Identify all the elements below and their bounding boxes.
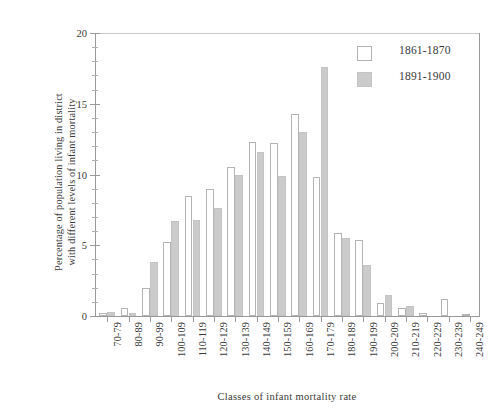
y-tick-label-5: 5 — [82, 240, 87, 251]
bar-1861-1870-150-159 — [270, 143, 277, 316]
bar-1861-1870-110-119 — [185, 196, 192, 316]
bar-1861-1870-100-109 — [163, 242, 170, 316]
bar-1861-1870-200-209 — [377, 303, 384, 316]
bar-1861-1870-170-179 — [313, 177, 320, 316]
legend-item-1891-1900: 1891-1900 — [357, 70, 479, 96]
bar-1861-1870-210-219 — [398, 308, 405, 316]
x-tick-label-140-149: 140-149 — [261, 322, 272, 357]
legend-item-1861-1870: 1861-1870 — [357, 44, 479, 70]
x-tick-label-160-169: 160-169 — [304, 322, 315, 357]
y-tick-right-0 — [95, 316, 100, 317]
x-tick-label-180-189: 180-189 — [346, 322, 357, 357]
bar-1891-1900-100-109 — [171, 221, 178, 316]
x-tick-label-110-119: 110-119 — [197, 322, 208, 356]
x-tick-label-240-249: 240-249 — [474, 322, 485, 357]
y-tick-label-20: 20 — [77, 28, 88, 39]
chart-figure: Percentage of population living in distr… — [0, 0, 496, 418]
y-axis-title-line2: with different levels of infant mortalit… — [66, 99, 77, 266]
bar-1861-1870-70-79 — [99, 313, 106, 316]
bar-1861-1870-130-139 — [227, 167, 234, 316]
x-tick-label-90-99: 90-99 — [154, 322, 165, 347]
bar-1891-1900-160-169 — [299, 132, 306, 316]
right-spine — [479, 33, 480, 317]
bar-1891-1900-150-159 — [278, 176, 285, 316]
chart-legend: 1861-1870 1891-1900 — [357, 44, 479, 96]
bar-1861-1870-240-249 — [462, 314, 469, 316]
x-tick-label-210-219: 210-219 — [410, 322, 421, 357]
x-tick-label-70-79: 70-79 — [112, 322, 123, 347]
bar-1891-1900-130-139 — [235, 175, 242, 317]
x-tick-label-100-109: 100-109 — [176, 322, 187, 357]
bar-1891-1900-90-99 — [150, 262, 157, 316]
bar-1861-1870-190-199 — [355, 240, 362, 316]
y-tick-label-0: 0 — [82, 311, 87, 322]
x-tick-label-190-199: 190-199 — [368, 322, 379, 357]
x-tick-label-230-239: 230-239 — [453, 322, 464, 357]
legend-swatch-icon — [357, 46, 372, 61]
x-tick-label-200-209: 200-209 — [389, 322, 400, 357]
x-tick-label-80-89: 80-89 — [133, 322, 144, 347]
x-axis-title: Classes of infant mortality rate — [95, 391, 479, 402]
y-axis-title-text: Percentage of population living in distr… — [52, 32, 78, 332]
bar-1861-1870-220-229 — [419, 313, 426, 316]
legend-swatch-icon — [357, 72, 372, 87]
bar-1891-1900-70-79 — [107, 312, 114, 316]
x-tick-label-220-229: 220-229 — [432, 322, 443, 357]
bar-1891-1900-190-199 — [363, 265, 370, 316]
bar-1891-1900-120-129 — [214, 208, 221, 316]
bar-1891-1900-140-149 — [257, 152, 264, 316]
x-tick-label-130-139: 130-139 — [240, 322, 251, 357]
bar-1891-1900-210-219 — [406, 306, 413, 316]
bar-1891-1900-200-209 — [385, 295, 392, 316]
legend-label: 1861-1870 — [399, 44, 451, 56]
bar-1891-1900-80-89 — [129, 313, 136, 316]
legend-label: 1891-1900 — [399, 70, 451, 82]
bar-1861-1870-140-149 — [249, 142, 256, 316]
y-axis-title-line1: Percentage of population living in distr… — [53, 93, 64, 271]
x-axis-spine — [95, 316, 480, 317]
x-axis-tick-labels: 70-7980-8990-99100-109110-119120-129130-… — [95, 322, 479, 384]
bar-1891-1900-180-189 — [342, 238, 349, 316]
x-tick-label-150-159: 150-159 — [282, 322, 293, 357]
bar-1861-1870-180-189 — [334, 233, 341, 316]
y-tick-label-15: 15 — [77, 98, 88, 109]
x-tick-label-120-129: 120-129 — [218, 322, 229, 357]
bar-1861-1870-230-239 — [441, 299, 448, 316]
bar-1861-1870-90-99 — [142, 288, 149, 316]
y-axis-title: Percentage of population living in distr… — [0, 0, 62, 340]
bar-1891-1900-110-119 — [193, 220, 200, 316]
y-tick-label-10: 10 — [77, 169, 88, 180]
bar-1891-1900-170-179 — [321, 67, 328, 316]
bar-1861-1870-120-129 — [206, 189, 213, 316]
x-tick-label-170-179: 170-179 — [325, 322, 336, 357]
bar-1861-1870-160-169 — [291, 114, 298, 316]
bar-1861-1870-80-89 — [121, 308, 128, 316]
